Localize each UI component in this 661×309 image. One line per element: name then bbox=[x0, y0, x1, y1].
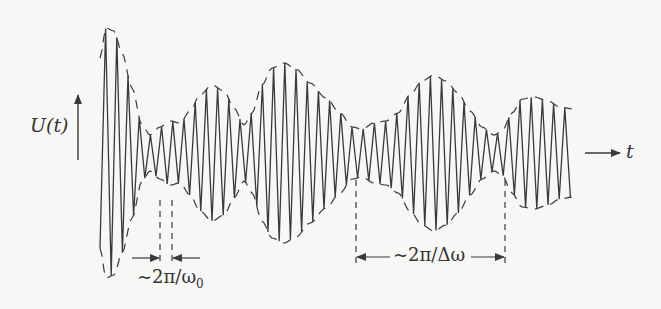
beat-signal-figure: U(t) t ~2π/ω0 ~2π/Δω bbox=[0, 0, 661, 309]
y-axis-label: U(t) bbox=[30, 114, 68, 136]
envelope-upper-dashed bbox=[100, 28, 572, 135]
t-axis-label: t bbox=[626, 140, 634, 162]
carrier-period-label-main: ~2π/ω bbox=[137, 266, 196, 287]
y-axis-label-text: U(t) bbox=[30, 114, 68, 136]
carrier-period-label-sub: 0 bbox=[196, 277, 204, 291]
carrier-oscillation bbox=[100, 28, 570, 275]
waveform-plot bbox=[0, 0, 661, 309]
envelope-period-label: ~2π/Δω bbox=[393, 244, 465, 265]
carrier-period-label: ~2π/ω0 bbox=[137, 266, 204, 291]
